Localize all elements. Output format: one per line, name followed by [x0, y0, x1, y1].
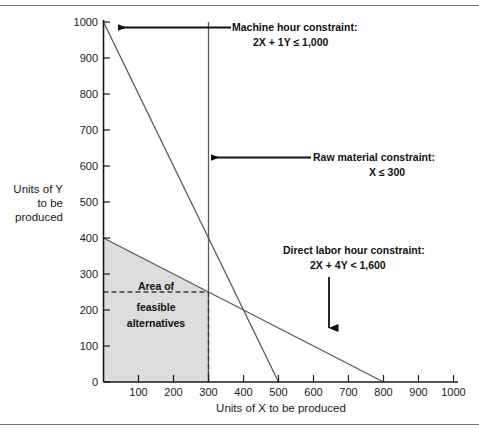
feasible-region-label-line-3: alternatives	[127, 317, 186, 329]
y-axis-tick-labels: 0 100 200 300 400 500 600 700 800 900 10…	[74, 16, 98, 388]
y-tick-label: 300	[80, 268, 98, 280]
y-tick-label: 700	[80, 124, 98, 136]
x-axis-title: Units of X to be produced	[216, 402, 346, 414]
x-tick-label: 200	[164, 386, 182, 398]
raw-material-annotation-formula: X ≤ 300	[369, 166, 405, 178]
raw-material-annotation-title: Raw material constraint:	[313, 151, 435, 163]
x-tick-label: 500	[269, 386, 287, 398]
feasible-region-label-line-1: Area of	[138, 280, 175, 292]
y-axis-title: Units of Y to be produced	[13, 183, 63, 223]
y-tick-label: 200	[80, 304, 98, 316]
x-tick-label: 800	[374, 386, 392, 398]
x-tick-label: 100	[129, 386, 147, 398]
x-tick-label: 600	[304, 386, 322, 398]
feasible-region-label-line-2: feasible	[136, 301, 175, 313]
machine-hour-annotation-formula: 2X + 1Y ≤ 1,000	[253, 36, 328, 48]
y-tick-label: 600	[80, 160, 98, 172]
y-axis-title-line-2: to be	[37, 197, 63, 209]
y-tick-label: 0	[92, 376, 98, 388]
y-tick-label: 900	[80, 52, 98, 64]
x-axis-tick-labels: 100 200 300 400 500 600 700 800 900 1000	[129, 386, 465, 398]
y-axis-title-line-3: produced	[15, 211, 63, 223]
x-tick-label: 1000	[441, 386, 465, 398]
machine-hour-annotation-title: Machine hour constraint:	[232, 21, 357, 33]
y-tick-label: 100	[80, 340, 98, 352]
y-tick-label: 400	[80, 232, 98, 244]
x-tick-label: 700	[339, 386, 357, 398]
x-tick-label: 300	[199, 386, 217, 398]
constraint-graph-svg: 0 100 200 300 400 500 600 700 800 900 10…	[0, 0, 479, 432]
linear-programming-figure: 0 100 200 300 400 500 600 700 800 900 10…	[0, 0, 479, 432]
y-tick-label: 800	[80, 88, 98, 100]
x-tick-label: 400	[234, 386, 252, 398]
direct-labor-annotation-title: Direct labor hour constraint:	[283, 244, 425, 256]
direct-labor-annotation-formula: 2X + 4Y < 1,600	[310, 259, 386, 271]
y-axis-title-line-1: Units of Y	[13, 183, 63, 195]
y-tick-label: 1000	[74, 16, 98, 28]
y-tick-label: 500	[80, 196, 98, 208]
x-tick-label: 900	[409, 386, 427, 398]
